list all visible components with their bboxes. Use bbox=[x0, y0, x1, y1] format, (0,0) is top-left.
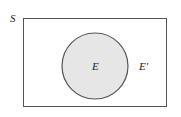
complement-label: E′ bbox=[138, 60, 149, 72]
sample-space-label: S bbox=[10, 12, 16, 24]
event-label: E bbox=[91, 60, 99, 72]
venn-diagram: S E E′ bbox=[0, 0, 181, 117]
